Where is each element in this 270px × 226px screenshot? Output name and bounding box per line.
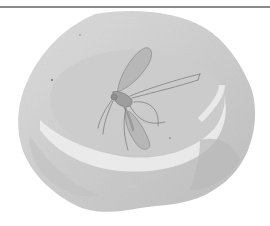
- blood-cell-mosquito-illustration: [0, 0, 270, 226]
